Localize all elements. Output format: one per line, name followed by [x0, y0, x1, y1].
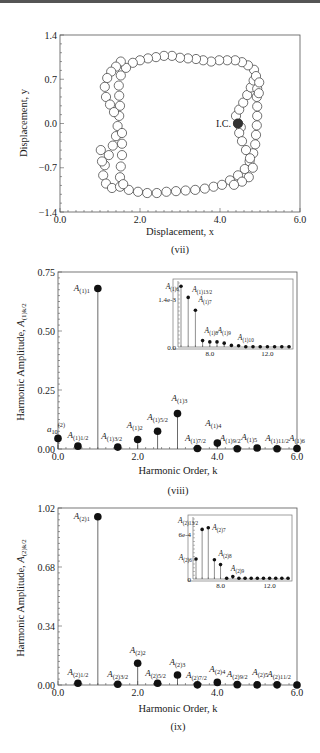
trajectory-marker: [253, 111, 262, 120]
point-label: A(2)9/2: [226, 669, 248, 681]
inset-frame: [173, 279, 293, 349]
panel-caption: (ix): [170, 721, 186, 733]
stem-marker: [214, 679, 222, 687]
x-tick-label: 2.0: [131, 451, 144, 462]
x-axis-label: Displacement, x: [146, 226, 215, 237]
point-label: A(1)9/2: [219, 433, 241, 445]
inset-stem-marker: [262, 576, 266, 580]
trajectory-marker: [255, 78, 264, 87]
stem-marker: [174, 410, 182, 418]
trajectory-marker: [252, 121, 261, 130]
point-label: a10(2): [47, 421, 65, 435]
initial-condition-label: I.C.: [216, 118, 231, 129]
trajectory-marker: [237, 137, 246, 146]
trajectory-marker: [116, 71, 125, 80]
trajectory-marker: [143, 54, 152, 63]
trajectory-marker: [116, 162, 125, 171]
stem-marker: [114, 681, 122, 689]
inset-stem-marker: [273, 345, 277, 349]
trajectory-marker: [200, 184, 209, 193]
y-tick-label: −1.4: [39, 207, 57, 218]
inset-stem-marker: [266, 345, 270, 349]
trajectory-marker: [100, 82, 109, 91]
inset-stem-marker: [274, 576, 278, 580]
inset-stem-marker: [258, 345, 262, 349]
stem-marker: [293, 445, 301, 453]
y-tick-label: 1.02: [38, 503, 56, 514]
point-label: A(1)7/2: [184, 433, 206, 445]
y-tick-label: 0.00: [38, 680, 56, 691]
x-tick-label: 4.0: [214, 214, 227, 225]
trajectory-marker: [119, 180, 128, 189]
inset-stem-marker: [243, 576, 247, 580]
inset-stem-marker: [230, 344, 234, 348]
harmonic-spectrum-1-panel: 0.02.04.06.00.750.500.250.00 a10(2)A(1)1…: [15, 267, 305, 498]
trajectory-marker: [251, 140, 260, 149]
inset-x-tick-label: 12.0: [261, 350, 274, 358]
stem-marker: [134, 660, 142, 668]
point-label: A(2)5: [251, 667, 268, 679]
point-label: A(1)5/2: [146, 412, 168, 424]
point-label: A(2)2: [129, 645, 146, 657]
point-label: A(1)2: [126, 420, 143, 432]
point-label: A(2)1/2: [66, 667, 88, 679]
trajectory-marker: [245, 154, 254, 163]
trajectory-marker: [115, 91, 124, 100]
x-tick-label: 2.0: [134, 214, 147, 225]
point-label: A(1)3: [171, 393, 188, 405]
point-label: A(1)6: [288, 433, 305, 445]
x-tick-label: 6.0: [291, 451, 304, 462]
stem-marker: [94, 285, 102, 293]
y-tick-label: 0.34: [38, 621, 56, 632]
point-label: A(2)4: [208, 664, 226, 676]
inset-y-tick-label: 0: [188, 576, 192, 584]
panel-caption: (vii): [171, 244, 190, 256]
stem-marker: [134, 436, 142, 444]
point-label: A(2)1: [73, 511, 90, 523]
trajectory-marker: [99, 171, 108, 180]
trajectory-marker: [235, 128, 244, 137]
y-tick-label: 0.50: [38, 326, 56, 337]
trajectory-marker: [117, 139, 126, 148]
inset-x-tick-label: 12.0: [263, 582, 276, 590]
inset-stem-marker: [194, 557, 198, 561]
x-tick-label: 4.0: [211, 451, 224, 462]
inset-stem-marker: [206, 526, 210, 530]
point-label: A(2)3/2: [106, 669, 128, 681]
inset-stem-marker: [244, 345, 248, 349]
trajectory-marker: [251, 130, 260, 139]
y-tick-label: 0.75: [38, 267, 56, 278]
point-label: A(2)3: [169, 657, 186, 669]
figure-canvas: 0.02.04.06.01.40.70.0−0.7−1.4 I.C. Displ…: [0, 0, 320, 753]
stem-marker: [154, 679, 162, 687]
inset-stem-marker: [194, 308, 198, 312]
trajectory-marker: [143, 188, 152, 197]
y-axis-label: Harmonic Amplitude, A(1)k/2: [15, 303, 28, 421]
stem-marker: [74, 442, 82, 450]
inset-plot: 8.012.01.4e-30.0A(1)6A(1)13/2A(1)7A(1)8A…: [158, 279, 293, 358]
phase-plot-panel: 0.02.04.06.01.40.70.0−0.7−1.4 I.C. Displ…: [18, 30, 306, 257]
inset-stem-marker: [237, 576, 241, 580]
inset-stem-marker: [287, 345, 291, 349]
trajectory-marker: [229, 180, 238, 189]
stem-marker: [273, 681, 281, 689]
x-tick-label: 6.0: [294, 214, 307, 225]
trajectory-marker: [175, 53, 184, 62]
stem-marker: [194, 681, 202, 689]
stem-marker: [253, 444, 261, 452]
stem-marker: [273, 445, 281, 453]
inset-stem-marker: [225, 576, 229, 580]
stem-marker: [293, 681, 301, 689]
trajectory-marker: [254, 89, 263, 98]
y-tick-label: 0.7: [45, 74, 58, 85]
trajectory-marker: [191, 185, 200, 194]
inset-x-tick-label: 8.0: [205, 350, 214, 358]
inset-stem-marker: [208, 340, 212, 344]
stem-marker: [233, 445, 241, 453]
y-tick-label: −0.7: [39, 162, 57, 173]
trajectory-marker: [114, 81, 123, 90]
trajectory-marker: [162, 187, 171, 196]
inset-stem-marker: [219, 563, 223, 567]
trajectory-marker: [171, 187, 180, 196]
stem-marker: [94, 513, 102, 521]
